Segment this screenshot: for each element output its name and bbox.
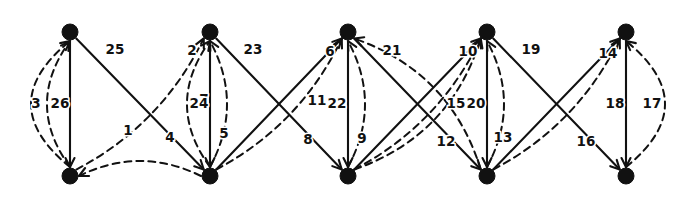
graph-node-t3[interactable] xyxy=(340,24,356,40)
edge-label-25: 25 xyxy=(106,41,125,57)
edge-label-4: 4 xyxy=(165,129,174,145)
graph-node-b3[interactable] xyxy=(340,168,356,184)
graph-canvas: 1234567891011121314151617181920212223242… xyxy=(0,0,690,209)
edge-label-9: 9 xyxy=(357,130,366,146)
edge-label-24: 24 xyxy=(190,95,209,111)
graph-edge-15 xyxy=(487,41,504,167)
edge-label-16: 16 xyxy=(577,133,596,149)
graph-node-t5[interactable] xyxy=(618,24,634,40)
edge-label-23: 23 xyxy=(244,41,263,57)
edge-label-8: 8 xyxy=(303,131,312,147)
graph-node-b2[interactable] xyxy=(202,168,218,184)
graph-node-t1[interactable] xyxy=(62,24,78,40)
edge-label-5: 5 xyxy=(219,125,228,141)
graph-node-b1[interactable] xyxy=(62,168,78,184)
edge-label-2: 2 xyxy=(187,42,196,58)
edge-label-11: 11 xyxy=(308,92,327,108)
graph-edge-11 xyxy=(348,41,365,167)
edge-label-3: 3 xyxy=(31,95,40,111)
arrowhead-icon-edge-1 xyxy=(79,168,89,176)
edges-layer xyxy=(31,38,665,176)
graph-edge-4 xyxy=(76,38,203,169)
edge-label-13: 13 xyxy=(494,129,513,145)
edge-label-6: 6 xyxy=(325,43,334,59)
edge-label-12: 12 xyxy=(437,133,456,149)
graph-node-b5[interactable] xyxy=(618,168,634,184)
graph-diagram: 1234567891011121314151617181920212223242… xyxy=(0,0,690,209)
arrowhead-icon-edge-2 xyxy=(196,38,204,48)
edge-label-22: 22 xyxy=(328,95,347,111)
edge-label-19: 19 xyxy=(522,41,541,57)
edge-label-10: 10 xyxy=(459,43,478,59)
edge-label-14: 14 xyxy=(599,45,618,61)
graph-node-b4[interactable] xyxy=(479,168,495,184)
edge-labels-layer: 1234567891011121314151617181920212223242… xyxy=(31,41,661,149)
edge-label-26: 26 xyxy=(51,95,70,111)
edge-label-20: 20 xyxy=(467,95,486,111)
edge-label-1: 1 xyxy=(123,122,132,138)
edge-label-17: 17 xyxy=(643,95,662,111)
graph-edge-1 xyxy=(79,161,201,176)
graph-node-t2[interactable] xyxy=(202,24,218,40)
edge-label-15: 15 xyxy=(447,95,466,111)
edge-label-21: 21 xyxy=(383,42,402,58)
edge-label-18: 18 xyxy=(606,95,625,111)
graph-edge-7 xyxy=(210,41,227,167)
graph-node-t4[interactable] xyxy=(479,24,495,40)
